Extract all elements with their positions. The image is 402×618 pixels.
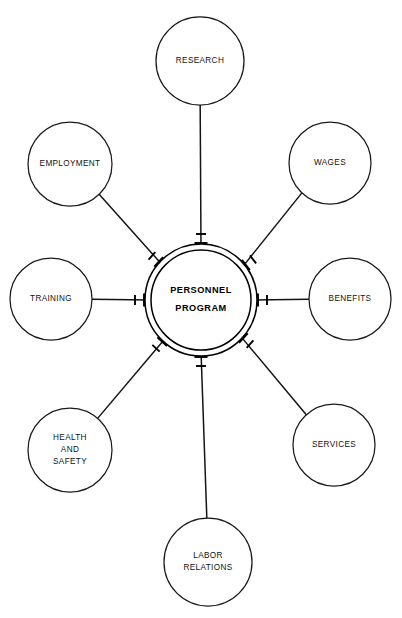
spoke-line-research — [200, 105, 201, 249]
diagram-canvas-svg: PERSONNEL PROGRAM RESEARCHWAGESBENEFITSS… — [0, 0, 402, 618]
personnel-program-diagram: PERSONNEL PROGRAM RESEARCHWAGESBENEFITSS… — [0, 0, 402, 618]
spoke-line-benefits — [252, 299, 309, 300]
spoke-line-labor-relations — [201, 351, 207, 518]
node-label-employment: EMPLOYMENT — [40, 159, 101, 168]
node-label-training: TRAINING — [30, 294, 72, 303]
hub-layer: PERSONNEL PROGRAM — [145, 244, 257, 356]
node-label-research: RESEARCH — [176, 56, 224, 65]
hub-label-line-2: PROGRAM — [175, 303, 226, 313]
spoke-line-training — [92, 299, 150, 300]
node-benefits[interactable]: BENEFITS — [309, 258, 391, 340]
hub-label-line-1: PERSONNEL — [170, 285, 232, 295]
node-research[interactable]: RESEARCH — [156, 17, 244, 105]
node-label-benefits: BENEFITS — [329, 294, 372, 303]
spoke-outer-tick-wages — [250, 255, 256, 263]
node-health-and-safety[interactable]: HEALTHANDSAFETY — [28, 408, 112, 492]
node-label-health-and-safety-line-2: AND — [61, 445, 79, 454]
node-label-labor-relations-line-2: RELATIONS — [184, 563, 233, 572]
node-training[interactable]: TRAINING — [10, 258, 92, 340]
node-label-labor-relations-line-1: LABOR — [193, 551, 223, 560]
node-label-wages: WAGES — [314, 158, 346, 167]
node-labor-relations[interactable]: LABORRELATIONS — [164, 518, 252, 606]
node-label-health-and-safety-line-3: SAFETY — [53, 457, 87, 466]
node-services[interactable]: SERVICES — [293, 404, 375, 486]
node-label-services: SERVICES — [312, 440, 356, 449]
node-wages[interactable]: WAGES — [289, 122, 371, 204]
hub-inner-ring — [151, 250, 251, 350]
node-label-health-and-safety-line-1: HEALTH — [53, 433, 87, 442]
node-circle-labor-relations — [164, 518, 252, 606]
node-employment[interactable]: EMPLOYMENT — [28, 122, 112, 206]
